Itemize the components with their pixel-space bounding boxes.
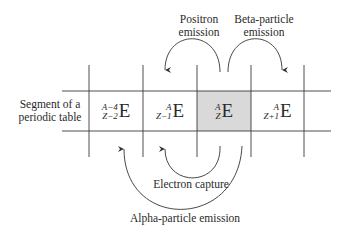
cell-z-minus-2: A−4Z−2E bbox=[89, 91, 143, 131]
beta-arrow bbox=[228, 39, 282, 72]
cell-z-highlighted: AZE bbox=[197, 91, 251, 131]
alpha-emission-text: Alpha-particle emission bbox=[130, 212, 240, 224]
nuclide-symbol: AZ−1E bbox=[156, 100, 184, 122]
positron-arrow bbox=[165, 39, 220, 72]
atomic-number: Z bbox=[215, 112, 220, 121]
alpha-emission-label: Alpha-particle emission bbox=[120, 212, 250, 225]
nuclide-symbol: AZE bbox=[215, 100, 233, 122]
element-symbol: E bbox=[172, 100, 184, 122]
positron-emission-label: Positron emission bbox=[168, 13, 230, 39]
nuclide-symbol: A−4Z−2E bbox=[102, 100, 131, 122]
atomic-number: Z−2 bbox=[102, 112, 118, 121]
cell-z-plus-1: AZ+1E bbox=[251, 91, 304, 131]
element-symbol: E bbox=[280, 100, 292, 122]
atomic-number: Z+1 bbox=[263, 112, 279, 121]
electron-capture-text: Electron capture bbox=[153, 178, 229, 190]
nuclide-symbol: AZ+1E bbox=[263, 100, 291, 122]
beta-label-line2: emission bbox=[224, 26, 304, 39]
positron-label-line1: Positron bbox=[168, 13, 230, 26]
cell-z-minus-1: AZ−1E bbox=[143, 91, 197, 131]
beta-emission-label: Beta-particle emission bbox=[224, 13, 304, 39]
element-symbol: E bbox=[221, 100, 233, 122]
segment-label-line1: Segment of a bbox=[14, 98, 86, 111]
electron-capture-label: Electron capture bbox=[146, 178, 236, 191]
segment-label-line2: periodic table bbox=[14, 111, 86, 124]
element-symbol: E bbox=[119, 100, 131, 122]
beta-label-line1: Beta-particle bbox=[224, 13, 304, 26]
segment-label: Segment of a periodic table bbox=[14, 98, 86, 124]
atomic-number: Z−1 bbox=[156, 112, 172, 121]
electron-capture-arrow bbox=[165, 146, 220, 178]
positron-label-line2: emission bbox=[168, 26, 230, 39]
